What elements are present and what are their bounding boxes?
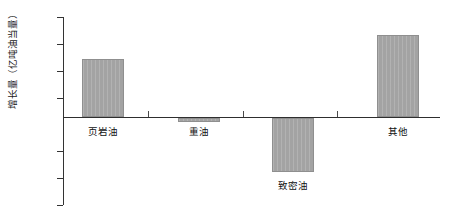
category-tick <box>337 111 338 117</box>
y-tick-5: -0.2 <box>0 151 63 152</box>
y-tick-mark <box>57 71 63 72</box>
category-label-tight-oil: 致密油 <box>263 178 323 192</box>
bar-tight-oil <box>272 118 314 172</box>
bar-chart: 增长量（亿吨油当量） 0.8 0.6 0.4 0.2 0 -0.2 <box>0 0 452 224</box>
bar-shale-oil <box>82 59 124 117</box>
y-tick-3: 0.2 <box>0 98 63 99</box>
category-tick <box>243 111 244 117</box>
plot-area: 0.8 0.6 0.4 0.2 0 -0.2 -0.4 -0.6 <box>0 0 452 224</box>
y-tick-2: 0.4 <box>0 71 63 72</box>
y-tick-1: 0.6 <box>0 44 63 45</box>
category-label-other: 其他 <box>368 124 428 138</box>
y-tick-mark <box>57 178 63 179</box>
y-tick-mark <box>57 151 63 152</box>
y-tick-4: 0 <box>0 124 63 125</box>
y-tick-6: -0.4 <box>0 178 63 179</box>
zero-axis-line <box>63 117 440 118</box>
y-axis-line <box>63 17 64 205</box>
y-tick-7: -0.6 <box>0 205 63 206</box>
y-tick-mark <box>57 44 63 45</box>
category-tick <box>148 111 149 117</box>
category-label-shale-oil: 页岩油 <box>73 124 133 138</box>
y-tick-mark <box>57 98 63 99</box>
y-tick-mark <box>57 205 63 206</box>
bar-other <box>377 35 419 117</box>
bar-heavy-oil <box>178 118 220 122</box>
category-label-heavy-oil: 重油 <box>169 124 229 138</box>
y-tick-0: 0.8 <box>0 17 63 18</box>
y-tick-mark <box>57 17 63 18</box>
